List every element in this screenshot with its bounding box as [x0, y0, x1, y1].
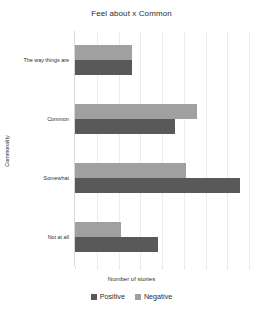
bar-positive: [75, 119, 175, 134]
x-axis-tick: [119, 266, 120, 269]
legend-swatch-icon: [91, 294, 97, 300]
bar-groups: [75, 31, 248, 266]
y-axis-label: Common: [47, 116, 69, 122]
legend-label: Negative: [144, 292, 172, 301]
bar-group: [75, 104, 248, 134]
bar-negative: [75, 163, 186, 178]
x-axis-tick: [162, 266, 163, 269]
y-axis-label: Not at all: [48, 234, 69, 240]
chart-legend: PositiveNegative: [0, 292, 263, 301]
bar-positive: [75, 237, 158, 252]
x-axis-tick: [206, 266, 207, 269]
bar-group: [75, 222, 248, 252]
gridline: [249, 31, 250, 266]
legend-label: Positive: [100, 292, 125, 301]
x-axis-tick: [97, 266, 98, 269]
y-axis-label: Somewhat: [44, 175, 69, 181]
bar-negative: [75, 222, 121, 237]
bar-negative: [75, 45, 132, 60]
x-axis-title: Number of stories: [0, 276, 263, 282]
x-axis-tick: [249, 266, 250, 269]
y-axis-label: The way things are: [23, 57, 69, 63]
plot-area: [74, 31, 248, 266]
legend-item[interactable]: Negative: [135, 292, 172, 301]
bar-positive: [75, 60, 132, 75]
x-axis-tick: [184, 266, 185, 269]
bar-negative: [75, 104, 197, 119]
chart-container: Feel about x Common Commonality The way …: [0, 0, 263, 318]
x-axis-tick: [140, 266, 141, 269]
bar-group: [75, 45, 248, 75]
x-axis-tick: [227, 266, 228, 269]
legend-swatch-icon: [135, 294, 141, 300]
bar-group: [75, 163, 248, 193]
y-axis-tick-labels: The way things areCommonSomewhatNot at a…: [0, 31, 72, 266]
legend-item[interactable]: Positive: [91, 292, 125, 301]
bar-positive: [75, 178, 240, 193]
chart-title: Feel about x Common: [0, 9, 263, 18]
x-axis-tick: [75, 266, 76, 269]
